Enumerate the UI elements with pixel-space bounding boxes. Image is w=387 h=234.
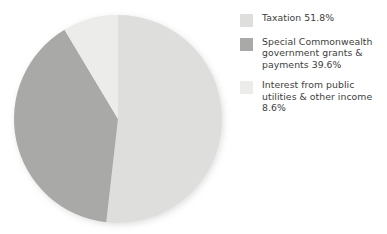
legend-label-taxation: Taxation 51.8% — [262, 12, 334, 23]
legend-swatch-taxation — [240, 14, 253, 27]
chart-legend: Taxation 51.8% Special Commonwealth gove… — [240, 12, 387, 122]
legend-swatch-special-commonwealth — [240, 38, 253, 51]
legend-label-interest: Interest from public utilities & other i… — [262, 79, 384, 113]
pie-chart-canvas — [0, 0, 236, 234]
legend-label-special-commonwealth: Special Commonwealth government grants &… — [262, 36, 384, 70]
legend-item-taxation[interactable]: Taxation 51.8% — [240, 12, 387, 27]
legend-item-special-commonwealth[interactable]: Special Commonwealth government grants &… — [240, 36, 387, 70]
pie-slice-taxation[interactable] — [106, 15, 222, 223]
pie-slices-group — [14, 15, 222, 223]
pie-chart-svg — [0, 0, 236, 234]
pie-chart-figure: Taxation 51.8% Special Commonwealth gove… — [0, 0, 387, 234]
legend-swatch-interest — [240, 81, 253, 94]
legend-item-interest[interactable]: Interest from public utilities & other i… — [240, 79, 387, 113]
